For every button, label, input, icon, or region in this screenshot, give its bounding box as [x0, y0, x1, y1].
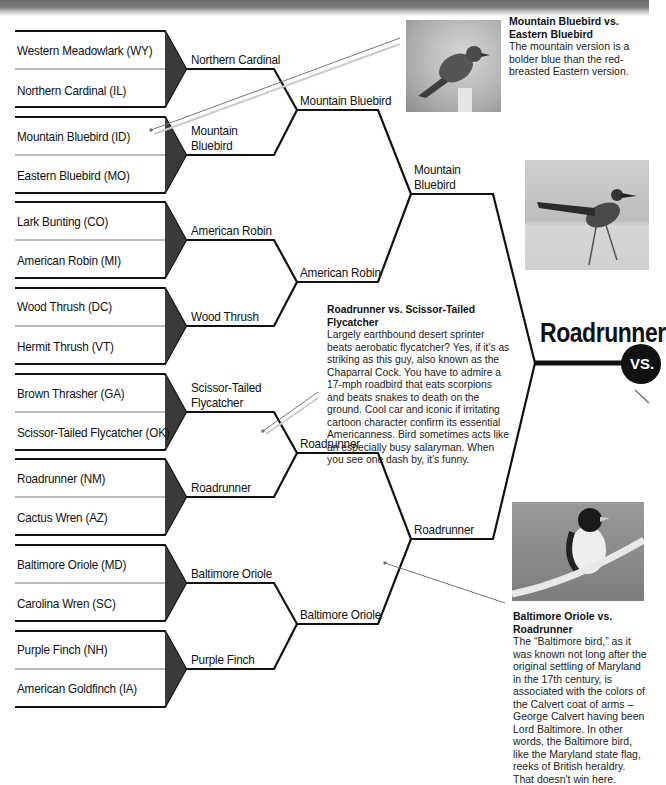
oriole-note: Baltimore Oriole vs. Roadrunner The “Bal…: [513, 610, 649, 785]
round4-winner: Mountain Bluebird: [414, 162, 486, 192]
round2-winner: Wood Thrush: [191, 309, 259, 324]
round2-winner: Scissor-Tailed Flycatcher: [191, 380, 272, 410]
entrant-label: Brown Thrasher (GA): [17, 386, 125, 401]
entrant-label: Northern Cardinal (IL): [17, 83, 126, 98]
entrant-label: American Robin (MI): [17, 253, 121, 268]
roadrunner-note: Roadrunner vs. Scissor-Tailed Flycatcher…: [327, 304, 511, 467]
note-title: Baltimore Oriole vs. Roadrunner: [513, 610, 649, 635]
entrant-label: Eastern Bluebird (MO): [17, 168, 130, 183]
entrant-label: Wood Thrush (DC): [17, 299, 112, 314]
vs-badge: VS.: [621, 344, 661, 384]
entrant-label: Lark Bunting (CO): [17, 214, 108, 229]
mountain-bluebird-photo: [406, 20, 501, 112]
entrant-label: Hermit Thrush (VT): [17, 339, 114, 354]
entrant-label: Baltimore Oriole (MD): [17, 557, 126, 572]
round2-winner: Roadrunner: [191, 480, 251, 495]
round3-winner: Baltimore Oriole: [300, 607, 381, 622]
note-body: Largely earthbound desert sprinter beats…: [327, 329, 509, 465]
entrant-label: American Goldfinch (IA): [17, 681, 137, 696]
entrant-label: Cactus Wren (AZ): [17, 510, 108, 525]
entrant-label: Mountain Bluebird (ID): [17, 129, 130, 144]
round2-winner: Purple Finch: [191, 652, 255, 667]
note-title: Mountain Bluebird vs. Eastern Bluebird: [509, 15, 644, 40]
round3-winner: American Robin: [300, 265, 381, 280]
entrant-label: Carolina Wren (SC): [17, 596, 116, 611]
entrant-label: Western Meadowlark (WY): [17, 43, 152, 58]
entrant-label: Scissor-Tailed Flycatcher (OK): [17, 425, 170, 440]
entrant-label: Purple Finch (NH): [17, 642, 108, 657]
roadrunner-photo: [525, 160, 649, 270]
round4-winner: Roadrunner: [414, 522, 474, 537]
entrant-label: Roadrunner (NM): [17, 471, 105, 486]
round2-winner: Baltimore Oriole: [191, 566, 272, 581]
note-body: The mountain version is a bolder blue th…: [509, 40, 629, 77]
round3-winner: Mountain Bluebird: [300, 93, 391, 108]
baltimore-oriole-photo: [512, 502, 644, 601]
note-body: The “Baltimore bird,” as it was known no…: [513, 635, 647, 785]
round2-winner: American Robin: [191, 223, 272, 238]
note-title: Roadrunner vs. Scissor-Tailed Flycatcher: [327, 304, 511, 329]
bluebird-note: Mountain Bluebird vs. Eastern Bluebird T…: [509, 15, 644, 78]
round2-winner: Mountain Bluebird: [191, 123, 263, 153]
round2-winner: Northern Cardinal: [191, 52, 280, 67]
